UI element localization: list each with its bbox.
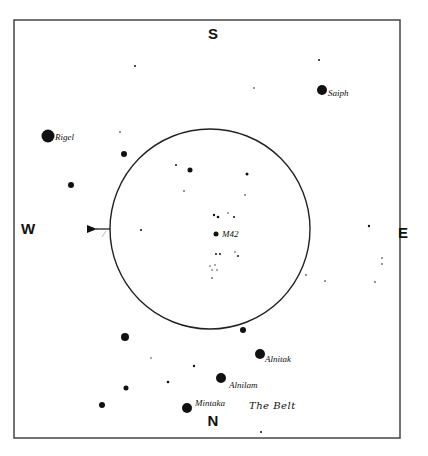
star	[305, 274, 307, 276]
star	[216, 269, 217, 270]
star	[99, 402, 105, 408]
named-star-alnitak: Alnitak	[255, 349, 292, 364]
star-marker	[182, 403, 192, 413]
m42-object: M42	[214, 229, 239, 239]
star	[211, 269, 212, 270]
star	[368, 225, 370, 227]
star	[260, 431, 262, 433]
star-marker	[216, 373, 226, 383]
star	[183, 190, 185, 192]
star-marker	[42, 130, 55, 143]
direction-east-label: E	[398, 224, 408, 241]
star	[193, 365, 195, 367]
star	[246, 173, 249, 176]
star	[240, 327, 246, 333]
star	[150, 357, 151, 358]
star	[121, 333, 129, 341]
star	[324, 280, 326, 282]
star-chart: RigelSaiphAlnitakAlnilamMintaka M42 S W …	[0, 0, 428, 456]
star-marker	[255, 349, 265, 359]
named-star-rigel: Rigel	[42, 130, 75, 143]
star	[374, 281, 376, 283]
star	[244, 194, 246, 196]
star	[68, 182, 74, 188]
star	[318, 59, 320, 61]
star	[134, 65, 136, 67]
star	[233, 216, 235, 218]
star	[167, 381, 170, 384]
star	[234, 251, 235, 252]
star	[119, 131, 121, 133]
star	[219, 253, 221, 255]
star	[381, 257, 383, 259]
star	[121, 151, 127, 157]
star-name-label: Alnilam	[228, 380, 258, 390]
named-stars: RigelSaiphAlnitakAlnilamMintaka	[42, 85, 350, 413]
m42-label: M42	[221, 229, 239, 239]
star	[175, 164, 177, 166]
star-name-label: Alnitak	[264, 354, 292, 364]
star	[213, 214, 215, 216]
star	[124, 386, 129, 391]
named-star-mintaka: Mintaka	[182, 398, 225, 413]
star	[188, 168, 193, 173]
direction-south-label: S	[208, 25, 218, 42]
direction-north-label: N	[208, 412, 219, 429]
star	[217, 216, 220, 219]
star	[140, 229, 142, 231]
star	[381, 263, 383, 265]
star-name-label: Saiph	[328, 88, 349, 98]
star-name-label: Rigel	[54, 132, 74, 142]
star	[209, 265, 210, 266]
star	[211, 277, 213, 279]
star	[214, 264, 215, 265]
named-star-alnilam: Alnilam	[216, 373, 258, 390]
star-name-label: Mintaka	[194, 398, 225, 408]
arrow-tick	[102, 231, 106, 237]
m42-marker	[214, 232, 219, 237]
named-star-saiph: Saiph	[317, 85, 349, 98]
direction-west-label: W	[21, 220, 36, 237]
star-marker	[317, 85, 327, 95]
field-of-view-circle	[110, 129, 310, 329]
the-belt-label: The Belt	[249, 400, 296, 411]
star	[237, 255, 239, 257]
star	[227, 212, 228, 213]
star	[215, 253, 217, 255]
chart-frame	[14, 20, 400, 438]
star	[253, 87, 255, 89]
